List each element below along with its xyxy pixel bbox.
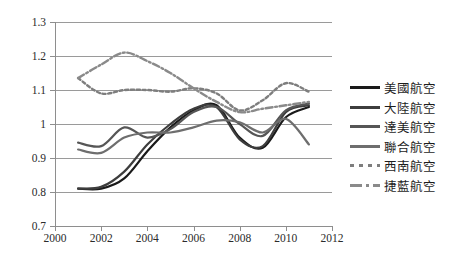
legend-line-swatch — [350, 102, 380, 113]
y-axis-label: 1.1 — [0, 84, 46, 96]
legend-item-4[interactable]: 聯合航空 — [350, 137, 458, 157]
line-chart: 1.3 1.2 1.1 1 0.9 0.8 0.7 2000 2002 2004… — [0, 0, 458, 277]
y-axis-label: 1.3 — [0, 16, 46, 28]
x-axis-label: 2010 — [274, 232, 297, 244]
legend-line-swatch — [350, 180, 380, 191]
series-lines — [55, 22, 332, 226]
x-tick-mark — [55, 226, 56, 231]
legend-item-label: 西南航空 — [384, 156, 436, 175]
x-axis-label: 2002 — [90, 232, 113, 244]
x-axis-label: 2008 — [228, 232, 251, 244]
x-tick-mark — [101, 226, 102, 231]
x-tick-mark — [147, 226, 148, 231]
legend-line-swatch — [350, 141, 380, 152]
x-axis-label: 2004 — [136, 232, 159, 244]
y-axis-label: 0.9 — [0, 152, 46, 164]
legend-line-swatch — [350, 82, 380, 93]
legend-item-label: 達美航空 — [384, 117, 436, 136]
x-tick-mark — [240, 226, 241, 231]
legend-item-2[interactable]: 大陸航空 — [350, 98, 458, 118]
x-axis-label: 2012 — [321, 232, 344, 244]
x-axis-label: 2006 — [182, 232, 205, 244]
x-tick-mark — [194, 226, 195, 231]
legend-item-6[interactable]: 捷藍航空 — [350, 176, 458, 196]
legend-line-swatch — [350, 121, 380, 132]
x-tick-mark — [332, 226, 333, 231]
legend-item-3[interactable]: 達美航空 — [350, 117, 458, 137]
legend-line-swatch — [350, 160, 380, 171]
series-line-6 — [78, 53, 309, 113]
legend-item-label: 美國航空 — [384, 78, 436, 97]
series-line-5 — [78, 78, 309, 110]
legend-item-label: 捷藍航空 — [384, 176, 436, 195]
x-axis-label: 2000 — [44, 232, 67, 244]
y-axis-label: 1.2 — [0, 50, 46, 62]
y-axis-label: 1 — [0, 118, 46, 130]
legend-item-label: 大陸航空 — [384, 98, 436, 117]
legend-item-label: 聯合航空 — [384, 137, 436, 156]
legend: 美國航空大陸航空達美航空聯合航空西南航空捷藍航空 — [350, 78, 458, 195]
y-axis-label: 0.7 — [0, 220, 46, 232]
y-axis-label: 0.8 — [0, 186, 46, 198]
x-tick-mark — [286, 226, 287, 231]
legend-item-5[interactable]: 西南航空 — [350, 156, 458, 176]
legend-item-1[interactable]: 美國航空 — [350, 78, 458, 98]
